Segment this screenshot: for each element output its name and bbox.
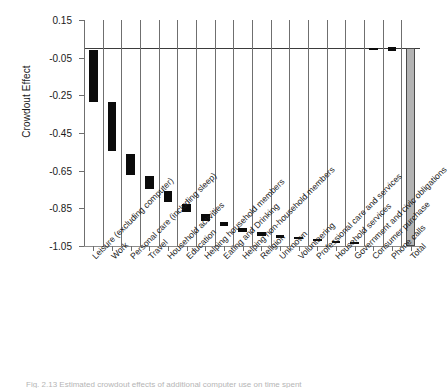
grid-line (196, 20, 197, 246)
y-tick-mark (79, 208, 84, 209)
range-bar (220, 222, 228, 226)
figure-caption: Fig. 2.13 Estimated crowdout effects of … (26, 380, 426, 388)
grid-line (308, 20, 309, 246)
grid-line (159, 20, 160, 246)
grid-line (345, 20, 346, 246)
grid-line (103, 20, 104, 246)
range-bar (126, 154, 134, 176)
grid-line (84, 20, 85, 246)
grid-line (233, 20, 234, 246)
range-bar (145, 176, 153, 189)
y-tick-mark (79, 58, 84, 59)
y-tick-label: -0.85 (49, 203, 72, 214)
range-bar (369, 48, 377, 50)
y-tick-label: -0.65 (49, 165, 72, 176)
y-tick-mark (79, 246, 84, 247)
y-axis-tick-labels: 0.15-0.05-0.25-0.45-0.65-0.85-1.05 (24, 0, 72, 388)
range-bar (89, 50, 97, 102)
range-bar (108, 102, 116, 151)
y-tick-label: -0.25 (49, 90, 72, 101)
y-tick-mark (79, 95, 84, 96)
y-tick-label: -1.05 (49, 241, 72, 252)
grid-line (121, 20, 122, 246)
y-tick-label: -0.05 (49, 52, 72, 63)
y-tick-label: -0.45 (49, 128, 72, 139)
y-tick-mark (79, 20, 84, 21)
y-tick-mark (79, 133, 84, 134)
y-tick-label: 0.15 (53, 15, 72, 26)
grid-line (327, 20, 328, 246)
y-tick-mark (79, 171, 84, 172)
range-bar (388, 47, 396, 51)
